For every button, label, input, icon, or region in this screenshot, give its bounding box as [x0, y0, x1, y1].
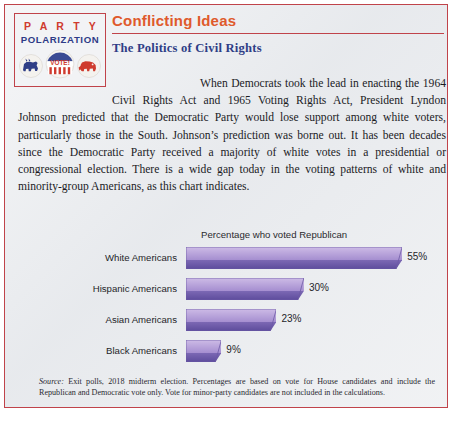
source-label: Source:: [39, 377, 64, 386]
chart-bar-area: 23%: [186, 309, 438, 340]
body-paragraph-text: When Democrats took the lead in enacting…: [18, 77, 446, 193]
chart-value-label: 55%: [407, 251, 427, 262]
source-text: Exit polls, 2018 midterm election. Perce…: [39, 377, 435, 397]
chart-value-label: 30%: [309, 282, 329, 293]
chart-bar-row: Asian Americans23%: [18, 309, 438, 340]
republican-vote-bar-chart: Percentage who voted Republican White Am…: [18, 227, 438, 372]
below-box-bleed-text: [16, 420, 436, 430]
chart-bar-row: Hispanic Americans30%: [18, 278, 438, 309]
title-rule-wrapper: Conflicting Ideas: [112, 13, 444, 34]
source-note: Source: Exit polls, 2018 midterm electio…: [39, 376, 435, 399]
chart-bar-row: White Americans55%: [18, 247, 438, 278]
page-root: P A R T Y POLARIZATION: [0, 0, 460, 433]
chart-bar-row: Black Americans9%: [18, 340, 438, 371]
chart-rows: White Americans55%Hispanic Americans30%A…: [18, 247, 438, 371]
chart-category-label: Hispanic Americans: [18, 278, 186, 295]
chart-title: Percentage who voted Republican: [201, 229, 347, 240]
chart-value-label: 9%: [226, 344, 240, 355]
logo-party-text: P A R T Y: [15, 20, 105, 32]
chart-bar: [186, 340, 221, 362]
feature-box: P A R T Y POLARIZATION: [4, 4, 448, 408]
logo-text-wrap-spacer: [18, 75, 112, 94]
feature-subtitle: The Politics of Civil Rights: [112, 41, 444, 56]
feature-header: Conflicting Ideas The Politics of Civil …: [112, 13, 444, 56]
chart-bar: [186, 247, 402, 269]
chart-category-label: White Americans: [18, 247, 186, 264]
body-paragraph: When Democrats took the lead in enacting…: [18, 75, 446, 195]
chart-value-label: 23%: [281, 313, 301, 324]
logo-polarization-text: POLARIZATION: [15, 34, 105, 45]
chart-bar: [186, 278, 304, 300]
chart-bar: [186, 309, 276, 331]
chart-bar-area: 55%: [186, 247, 438, 278]
feature-title: Conflicting Ideas: [112, 13, 444, 30]
chart-category-label: Black Americans: [18, 340, 186, 357]
chart-bar-area: 30%: [186, 278, 438, 309]
chart-category-label: Asian Americans: [18, 309, 186, 326]
vote-badge-label: VOTE!: [50, 59, 70, 66]
chart-bar-area: 9%: [186, 340, 438, 371]
scan-edge-gradient: [451, 0, 460, 433]
